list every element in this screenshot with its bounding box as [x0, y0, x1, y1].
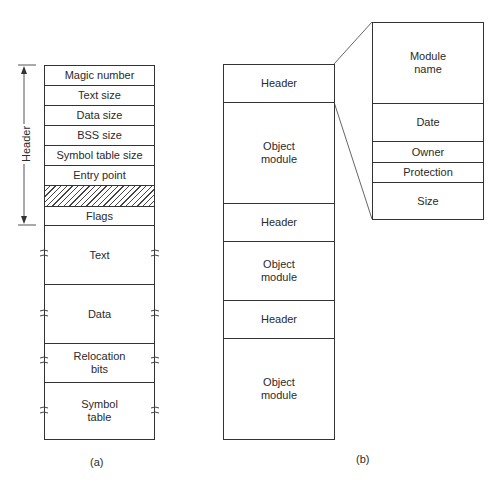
- detail-owner: Owner: [372, 141, 484, 163]
- caption-a: (a): [90, 456, 103, 468]
- archive-object-module-2: Object module: [223, 241, 335, 301]
- archive-object-module-3: Object module: [223, 338, 335, 440]
- archive-header-2: Header: [223, 203, 335, 242]
- detail-protection: Protection: [372, 162, 484, 183]
- archive-header-3: Header: [223, 300, 335, 339]
- archive-object-module-1: Object module: [223, 102, 335, 204]
- detail-date: Date: [372, 103, 484, 142]
- archive-header-1: Header: [223, 64, 335, 103]
- detail-size: Size: [372, 182, 484, 220]
- detail-module-name: Module name: [372, 22, 484, 104]
- caption-b: (b): [356, 453, 369, 465]
